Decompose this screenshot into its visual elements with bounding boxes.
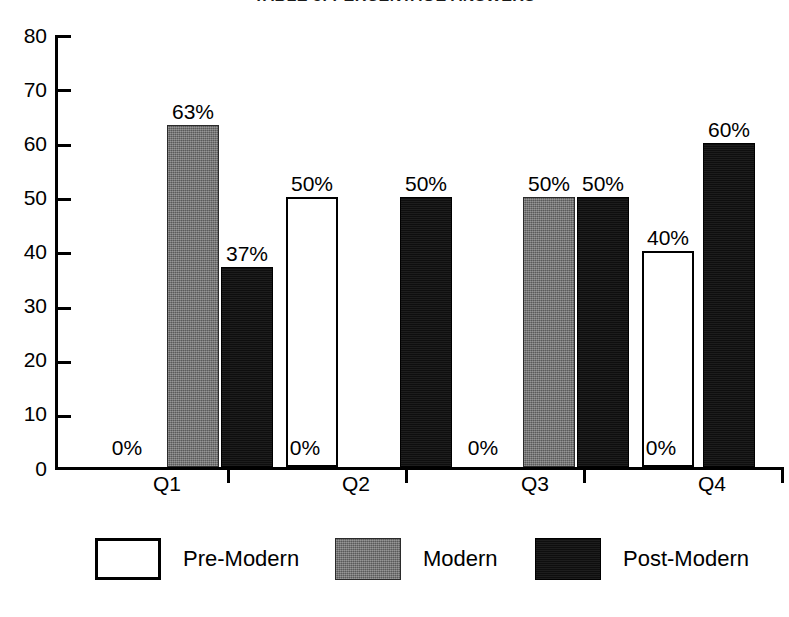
bar-value-q2-post: 50% — [388, 173, 464, 194]
x-tick-end — [781, 467, 784, 483]
y-axis-label-10: 10 — [7, 403, 47, 424]
y-axis-label-0: 0 — [7, 458, 47, 479]
y-tick-50 — [58, 198, 71, 201]
legend-label-pre-modern: Pre-Modern — [183, 548, 299, 570]
x-axis-label-q1: Q1 — [127, 473, 207, 494]
bar-q1-post — [221, 267, 273, 467]
bar-q2-pre — [286, 197, 338, 467]
bar-value-q1-post: 37% — [209, 243, 285, 264]
bar-q4-post — [703, 143, 755, 467]
y-axis-label-80: 80 — [7, 25, 47, 46]
bar-q4-pre — [642, 251, 694, 467]
x-axis-line — [55, 467, 784, 470]
x-axis-label-q3: Q3 — [495, 473, 575, 494]
legend-item-pre-modern: Pre-Modern — [95, 536, 299, 582]
chart-legend: Pre-Modern Modern Post-Modern — [0, 536, 789, 588]
bar-q3-modern — [523, 197, 575, 467]
bar-value-q1-pre: 0% — [89, 437, 165, 458]
y-tick-30 — [58, 307, 71, 310]
bar-value-q4-post: 60% — [691, 119, 767, 140]
black-swatch-icon — [535, 538, 601, 580]
plot-area: 0% 63% 37% 50% 0% 50% 0% 50% 50% 40% 0% — [55, 35, 784, 470]
y-tick-70 — [58, 89, 71, 92]
bar-value-q3-pre: 0% — [445, 437, 521, 458]
legend-label-modern: Modern — [423, 548, 498, 570]
y-tick-10 — [58, 415, 71, 418]
legend-label-post-modern: Post-Modern — [623, 548, 749, 570]
chart-figure: TABLE 5: PERCENTAGE ANSWERS 80 70 60 50 … — [0, 0, 789, 617]
y-axis-label-30: 30 — [7, 295, 47, 316]
bar-value-q4-modern: 0% — [623, 437, 699, 458]
page-title: TABLE 5: PERCENTAGE ANSWERS — [0, 0, 789, 5]
bar-value-q1-modern: 63% — [155, 101, 231, 122]
gray-swatch-icon — [335, 538, 401, 580]
y-tick-40 — [58, 252, 71, 255]
y-axis-label-60: 60 — [7, 133, 47, 154]
x-tick-sep-3 — [583, 467, 586, 483]
bar-q2-post — [400, 197, 452, 467]
x-tick-sep-2 — [405, 467, 408, 483]
y-axis-label-20: 20 — [7, 349, 47, 370]
x-axis-label-q2: Q2 — [316, 473, 396, 494]
legend-item-post-modern: Post-Modern — [535, 536, 749, 582]
bar-q1-modern — [167, 125, 219, 467]
y-tick-80 — [58, 35, 71, 38]
y-axis-label-70: 70 — [7, 79, 47, 100]
bar-value-q3-post: 50% — [565, 173, 641, 194]
legend-item-modern: Modern — [335, 536, 498, 582]
y-tick-20 — [58, 361, 71, 364]
y-axis-label-50: 50 — [7, 187, 47, 208]
bar-value-q4-pre: 40% — [630, 227, 706, 248]
y-axis-label-40: 40 — [7, 241, 47, 262]
bar-q3-post — [577, 197, 629, 467]
white-swatch-icon — [95, 538, 161, 580]
bar-value-q2-pre: 50% — [274, 173, 350, 194]
bar-value-q2-modern: 0% — [267, 437, 343, 458]
x-tick-sep-1 — [227, 467, 230, 483]
x-axis-label-q4: Q4 — [672, 473, 752, 494]
y-tick-60 — [58, 144, 71, 147]
